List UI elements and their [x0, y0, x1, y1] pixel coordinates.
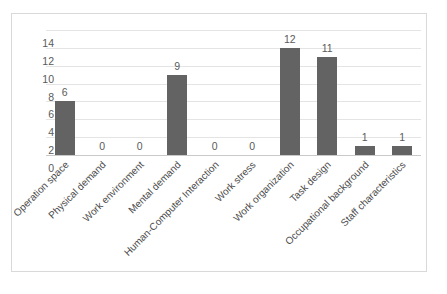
bars-layer: 600900121111 — [46, 30, 421, 155]
bar[interactable] — [55, 101, 75, 155]
bar-slot: 6 — [46, 30, 84, 155]
category-slot: Human-Computer Interaction — [196, 157, 234, 267]
bar-value-label: 11 — [322, 43, 333, 54]
bar-value-label: 0 — [212, 141, 218, 152]
category-axis-labels: Operation spacePhysical demandWork envir… — [46, 157, 421, 267]
bar-value-label: 9 — [174, 61, 180, 72]
category-slot: Staff characteristics — [384, 157, 422, 267]
bar-value-label: 0 — [137, 141, 143, 152]
bar-value-label: 6 — [62, 87, 68, 98]
category-slot: Work organization — [271, 157, 309, 267]
bar-value-label: 0 — [99, 141, 105, 152]
bar-value-label: 12 — [284, 34, 296, 45]
bar-chart-figure: 02468101214 600900121111 Operation space… — [11, 13, 427, 272]
bar-value-label: 0 — [249, 141, 255, 152]
